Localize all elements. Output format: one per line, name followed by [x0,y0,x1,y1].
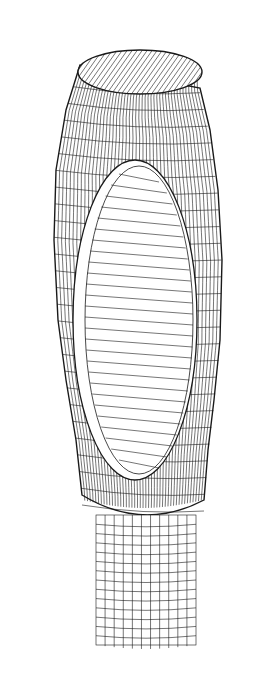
vessel-mesh-drawing [0,0,279,678]
neck-cylinder [96,515,196,649]
cutaway-window [73,160,197,480]
wireframe-figure [0,0,279,678]
